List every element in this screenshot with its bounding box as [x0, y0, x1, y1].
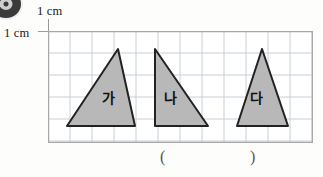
- answer-row: ( ): [0, 148, 323, 174]
- figure-label-1: 나: [164, 90, 177, 106]
- corner-badge-inner-dot: [4, 2, 9, 7]
- top-unit-label: 1 cm: [37, 4, 62, 19]
- answer-open-paren: (: [160, 148, 165, 166]
- top-unit-tick: [48, 19, 49, 31]
- figure-label-2: 다: [250, 90, 263, 106]
- answer-close-paren: ): [250, 148, 255, 166]
- left-unit-label: 1 cm: [4, 26, 29, 41]
- grid-area: 가나다: [48, 31, 313, 143]
- corner-badge-icon: [0, 0, 21, 18]
- grid-canvas: 가나다: [48, 31, 313, 143]
- figure-label-0: 가: [102, 90, 115, 106]
